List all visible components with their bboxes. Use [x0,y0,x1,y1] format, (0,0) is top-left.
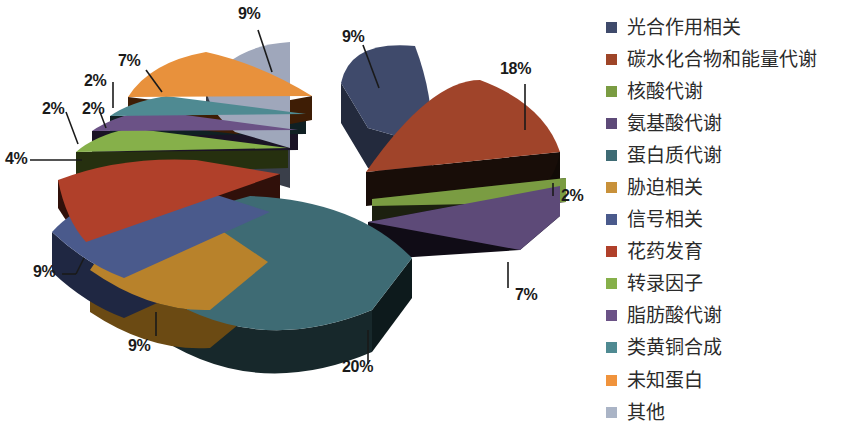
pie-value-label-aminoacid: 7% [515,286,538,304]
pie-value-label-flavonoid: 2% [84,72,107,90]
legend-item-label: 核酸代谢 [627,82,703,101]
legend-item-label: 碳水化合物和能量代谢 [627,50,817,69]
pie-value-label-fatty: 2% [82,100,105,118]
pie-value-label-protein: 20% [342,358,373,376]
legend-item-stress[interactable]: 胁迫相关 [604,171,846,203]
legend-swatch-icon [606,214,617,225]
legend-item-anther-development[interactable]: 花药发育 [604,236,846,268]
leader-tf [66,112,78,144]
legend-item-nucleic-acid[interactable]: 核酸代谢 [604,75,846,107]
legend-item-label: 氨基酸代谢 [627,114,722,133]
legend-item-label: 光合作用相关 [627,18,741,37]
legend-item-label: 脂肪酸代谢 [627,306,722,325]
legend-item-carbohydrate[interactable]: 碳水化合物和能量代谢 [604,43,846,75]
legend-item-label: 蛋白质代谢 [627,146,722,165]
pie-chart-figure: 9% 9% 18% 2% 7% 20% 9% 9% 4% 2% 2% 2% 7%… [0,0,846,434]
legend-item-label: 胁迫相关 [627,178,703,197]
pie-value-label-nucleic: 2% [561,187,584,205]
legend-item-label: 未知蛋白 [627,371,703,390]
pie-value-label-anther: 4% [5,150,28,168]
legend-swatch-icon [606,407,617,418]
pie-value-label-photosynthesis: 9% [342,28,365,46]
legend-item-label: 其他 [627,403,665,422]
pie-value-label-unknown: 7% [118,52,141,70]
legend-swatch-icon [606,54,617,65]
chart-legend: 光合作用相关 碳水化合物和能量代谢 核酸代谢 氨基酸代谢 蛋白质代谢 胁迫相关 … [604,11,846,429]
legend-item-signal[interactable]: 信号相关 [604,204,846,236]
pie-chart-canvas: 9% 9% 18% 2% 7% 20% 9% 9% 4% 2% 2% 2% 7% [0,0,600,434]
pie-value-label-other: 9% [238,5,261,23]
legend-item-label: 花药发育 [627,242,703,261]
legend-swatch-icon [606,246,617,257]
pie-value-label-stress: 9% [128,337,151,355]
legend-item-photosynthesis[interactable]: 光合作用相关 [604,11,846,43]
legend-item-protein[interactable]: 蛋白质代谢 [604,139,846,171]
legend-swatch-icon [606,375,617,386]
legend-item-flavonoid[interactable]: 类黄铜合成 [604,332,846,364]
legend-swatch-icon [606,150,617,161]
legend-swatch-icon [606,278,617,289]
legend-item-fatty-acid[interactable]: 脂肪酸代谢 [604,300,846,332]
pie-value-label-tf: 2% [42,100,65,118]
legend-swatch-icon [606,182,617,193]
legend-item-label: 类黄铜合成 [627,338,722,357]
legend-item-unknown-protein[interactable]: 未知蛋白 [604,364,846,396]
legend-swatch-icon [606,86,617,97]
legend-swatch-icon [606,342,617,353]
legend-item-other[interactable]: 其他 [604,396,846,428]
legend-item-label: 信号相关 [627,210,703,229]
pie-value-label-carbohydrate: 18% [500,60,531,78]
legend-swatch-icon [606,118,617,129]
legend-swatch-icon [606,310,617,321]
legend-item-transcription-factor[interactable]: 转录因子 [604,268,846,300]
legend-item-label: 转录因子 [627,274,703,293]
legend-swatch-icon [606,22,617,33]
legend-item-amino-acid[interactable]: 氨基酸代谢 [604,107,846,139]
pie-value-label-signal: 9% [33,263,56,281]
